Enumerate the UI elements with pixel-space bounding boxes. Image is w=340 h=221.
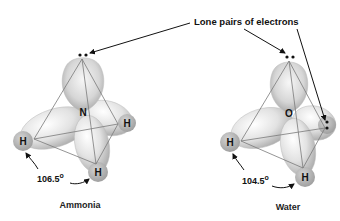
ammonia-central-atom-label: N <box>79 107 86 118</box>
water-caption: Water <box>276 202 301 212</box>
water-molecule: O H H 104.5o Water <box>220 55 339 212</box>
water-h-bottom-label: H <box>301 172 308 183</box>
ammonia-h-left-label: H <box>19 136 26 147</box>
water-h-left-label: H <box>226 137 233 148</box>
ammonia-molecule: N H H H 106.5o Ammonia <box>13 53 137 210</box>
lone-pairs-label: Lone pairs of electrons <box>194 16 299 27</box>
ammonia-bond-angle: 106.5o <box>37 172 64 184</box>
ammonia-h-bottom-label: H <box>94 167 101 178</box>
ammonia-lone-pair-dots <box>78 53 87 56</box>
water-lone-pair-lobe-top <box>270 62 308 113</box>
water-bond-angle: 104.5o <box>242 174 269 186</box>
ammonia-caption: Ammonia <box>59 200 101 210</box>
water-lone-pair-dots-top <box>285 55 294 58</box>
molecular-geometry-diagram: N H H H 106.5o Ammonia <box>0 0 340 221</box>
water-central-atom-label: O <box>285 108 293 119</box>
ammonia-h-right-label: H <box>123 118 130 129</box>
